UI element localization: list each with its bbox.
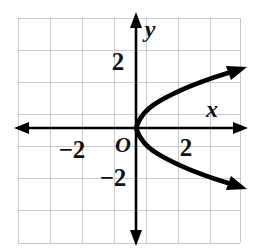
x-axis-label: x (205, 96, 218, 122)
origin-label: O (115, 132, 131, 157)
y-tick-label-positive-two: 2 (112, 48, 125, 75)
coordinate-plane: y x O 2 −2 −2 2 (0, 0, 253, 249)
figure-background (0, 0, 253, 249)
x-tick-label-negative-two: −2 (59, 136, 86, 163)
y-axis-label: y (142, 16, 156, 42)
graph-figure: y x O 2 −2 −2 2 (0, 0, 253, 249)
y-tick-label-negative-two: −2 (100, 164, 127, 191)
x-tick-label-positive-two: 2 (180, 134, 193, 161)
